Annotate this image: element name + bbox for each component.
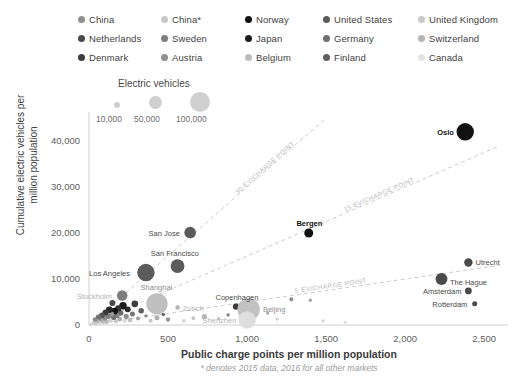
point-label-shanghai: Shanghai (141, 283, 173, 292)
data-point-zurich[interactable] (175, 305, 179, 309)
data-point-shanghai[interactable] (146, 293, 167, 314)
data-point[interactable] (109, 300, 115, 306)
data-point[interactable] (149, 319, 153, 323)
point-label-copenhagen: Copenhagen (216, 293, 259, 302)
data-point-stockholm[interactable] (117, 290, 128, 301)
point-label-san-francisco: San Francisco (151, 249, 199, 258)
data-point[interactable] (276, 317, 279, 320)
point-label-zurich: Zurich (183, 304, 204, 313)
data-point-los-angeles[interactable] (137, 264, 154, 281)
point-label-oslo: Oslo (437, 128, 454, 137)
point-label-the-hague: The Hague (450, 278, 487, 287)
point-label-amsterdam: Amsterdam (423, 287, 461, 296)
data-point[interactable] (123, 319, 127, 323)
data-point[interactable] (321, 319, 324, 322)
ev-charge-point-scatter-chart: ChinaChina*NorwayUnited StatesUnited Kin… (0, 0, 514, 380)
point-label-los-angeles: Los Angeles (89, 269, 130, 278)
point-label-rotterdam: Rotterdam (432, 300, 467, 309)
x-axis-tick-label: 1,500 (301, 333, 351, 344)
x-axis-tick-label: 0 (64, 333, 114, 344)
plot-area: 010,00020,00030,00040,00005001,0001,5002… (0, 0, 514, 380)
data-point-the-hague[interactable] (465, 288, 472, 295)
point-label-utrecht: Utrecht (476, 258, 500, 267)
data-point[interactable] (144, 314, 147, 317)
y-axis-tick-label: 10,000 (30, 273, 80, 284)
data-point-san-francisco[interactable] (171, 259, 185, 273)
data-point[interactable] (289, 297, 293, 301)
data-point-san-jose[interactable] (184, 227, 196, 239)
y-axis-tick-label: 0 (30, 319, 80, 330)
data-point[interactable] (154, 315, 159, 320)
point-label-san-jose: San Jose (149, 229, 180, 238)
data-point-amsterdam[interactable] (436, 273, 448, 285)
data-point[interactable] (130, 311, 135, 316)
data-point-oslo[interactable] (457, 123, 474, 140)
data-point[interactable] (128, 318, 132, 322)
x-axis-tick-label: 1,000 (222, 333, 272, 344)
data-point[interactable] (136, 317, 140, 321)
point-label-shenzhen: Shenzhen (203, 316, 237, 325)
point-label-stockholm: Stockholm (77, 292, 112, 301)
data-point[interactable] (182, 319, 186, 323)
x-axis-tick-label: 2,500 (459, 333, 509, 344)
chart-footnote: * denotes 2015 data, 2016 for all other … (89, 363, 489, 373)
data-point-shenzhen[interactable] (238, 311, 255, 328)
data-point[interactable] (91, 322, 94, 325)
data-point[interactable] (343, 321, 346, 324)
data-point-utrecht[interactable] (464, 258, 472, 266)
data-point[interactable] (124, 314, 129, 319)
data-point-bergen[interactable] (304, 229, 313, 238)
x-axis-tick-label: 500 (143, 333, 193, 344)
data-point-rotterdam[interactable] (472, 301, 477, 306)
point-label-bergen: Bergen (296, 219, 322, 228)
x-axis-tick-label: 2,000 (380, 333, 430, 344)
data-point[interactable] (131, 300, 138, 307)
data-point[interactable] (191, 316, 195, 320)
x-axis-title: Public charge points per million populat… (89, 348, 489, 360)
data-point[interactable] (166, 317, 170, 321)
data-point[interactable] (138, 308, 143, 313)
point-label-beijing: Beijing (263, 305, 286, 314)
y-axis-title: Cumulative electric vehicles per million… (14, 80, 40, 250)
data-point[interactable] (309, 299, 312, 302)
